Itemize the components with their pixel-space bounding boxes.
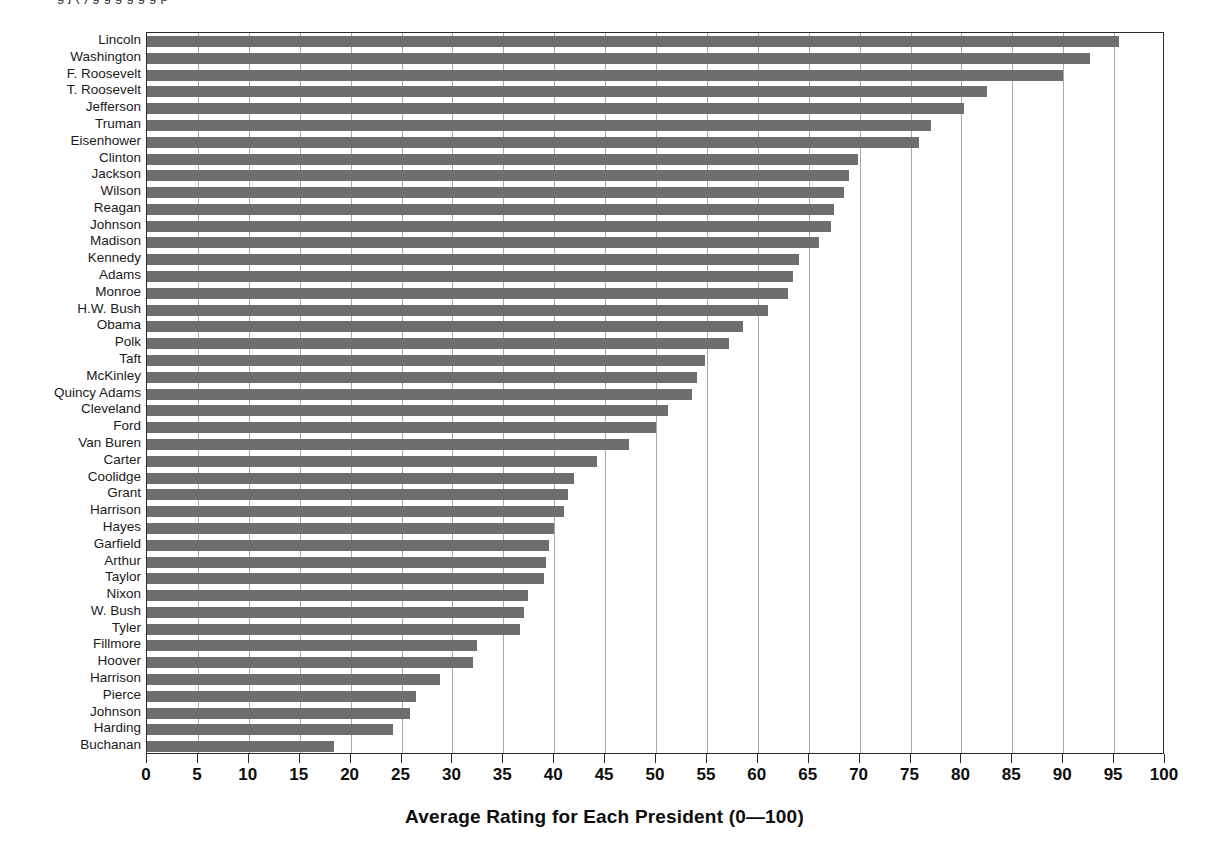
bar [147, 624, 520, 635]
x-axis-tick [248, 754, 249, 763]
x-axis-tick-label: 80 [951, 765, 970, 785]
x-axis-tick [655, 754, 656, 763]
bar-row [147, 251, 1163, 268]
bar-row [147, 335, 1163, 352]
x-axis-tick-label: 90 [1053, 765, 1072, 785]
x-axis-tick-label: 5 [192, 765, 201, 785]
bar [147, 506, 564, 517]
y-axis-label: Cleveland [0, 400, 141, 417]
y-axis-label: Carter [0, 451, 141, 468]
x-axis-tick [1062, 754, 1063, 763]
bar-row [147, 621, 1163, 638]
bar [147, 355, 705, 366]
bar [147, 708, 410, 719]
bar-row [147, 318, 1163, 335]
y-axis-label: Tyler [0, 619, 141, 636]
y-axis-label: Jefferson [0, 98, 141, 115]
bar [147, 254, 799, 265]
x-axis-tick [350, 754, 351, 763]
y-axis-label: Lincoln [0, 31, 141, 48]
y-axis-label: Garfield [0, 535, 141, 552]
bar [147, 70, 1063, 81]
bar-row [147, 537, 1163, 554]
x-axis-tick [451, 754, 452, 763]
y-axis-label: Kennedy [0, 249, 141, 266]
bar [147, 640, 477, 651]
bar-row [147, 302, 1163, 319]
bar [147, 724, 393, 735]
bar [147, 36, 1119, 47]
bar-row [147, 218, 1163, 235]
x-axis-tick [604, 754, 605, 763]
bar [147, 372, 697, 383]
bar-row [147, 419, 1163, 436]
y-axis-label: Fillmore [0, 635, 141, 652]
x-axis-tick-label: 10 [238, 765, 257, 785]
bar [147, 103, 964, 114]
x-axis-tick [808, 754, 809, 763]
plot-area [146, 32, 1164, 754]
y-axis-label: Madison [0, 232, 141, 249]
bar-row [147, 100, 1163, 117]
bar [147, 590, 528, 601]
x-axis-tick [146, 754, 147, 763]
bar [147, 607, 524, 618]
y-axis-label: Nixon [0, 585, 141, 602]
bar-row [147, 470, 1163, 487]
x-axis-tick-label: 50 [646, 765, 665, 785]
bar-row [147, 738, 1163, 755]
bar [147, 389, 692, 400]
x-axis-tick [1164, 754, 1165, 763]
bar [147, 691, 416, 702]
x-axis-tick-label: 65 [798, 765, 817, 785]
bar [147, 338, 729, 349]
bar [147, 321, 743, 332]
x-axis-tick [1113, 754, 1114, 763]
x-axis-tick-label: 35 [493, 765, 512, 785]
x-axis-tick-label: 45 [595, 765, 614, 785]
bar [147, 53, 1090, 64]
bar [147, 120, 931, 131]
x-axis-tick-label: 70 [849, 765, 868, 785]
y-axis-label: Harding [0, 719, 141, 736]
y-axis-label: Hoover [0, 652, 141, 669]
y-axis-label: Jackson [0, 165, 141, 182]
x-axis-tick [757, 754, 758, 763]
bar-row [147, 234, 1163, 251]
clipped-caption-text: g j ( ) g g g g g g p [57, 0, 168, 4]
bar-row [147, 671, 1163, 688]
x-axis-tick-label: 25 [391, 765, 410, 785]
y-axis-labels: LincolnWashingtonF. RooseveltT. Roosevel… [0, 32, 141, 754]
y-axis-label: Reagan [0, 199, 141, 216]
x-axis-tick-label: 60 [747, 765, 766, 785]
bar-row [147, 688, 1163, 705]
bar [147, 674, 440, 685]
y-axis-label: Johnson [0, 216, 141, 233]
bar [147, 422, 656, 433]
y-axis-label: McKinley [0, 367, 141, 384]
bar-row [147, 453, 1163, 470]
y-axis-label: H.W. Bush [0, 300, 141, 317]
bar-row [147, 83, 1163, 100]
y-axis-label: Adams [0, 266, 141, 283]
bar-row [147, 486, 1163, 503]
y-axis-label: Quincy Adams [0, 384, 141, 401]
bar-row [147, 67, 1163, 84]
bar-row [147, 184, 1163, 201]
y-axis-label: Van Buren [0, 434, 141, 451]
bar [147, 86, 987, 97]
x-axis-tick-label: 85 [1002, 765, 1021, 785]
x-axis: 0510152025303540455055606570758085909510… [146, 754, 1164, 794]
y-axis-label: Johnson [0, 703, 141, 720]
bar [147, 540, 549, 551]
x-axis-tick [910, 754, 911, 763]
y-axis-label: Polk [0, 333, 141, 350]
bar-row [147, 520, 1163, 537]
x-axis-tick [960, 754, 961, 763]
x-axis-tick [706, 754, 707, 763]
bar-row [147, 352, 1163, 369]
x-axis-tick-label: 95 [1104, 765, 1123, 785]
y-axis-label: T. Roosevelt [0, 81, 141, 98]
bar [147, 271, 793, 282]
x-axis-tick [859, 754, 860, 763]
